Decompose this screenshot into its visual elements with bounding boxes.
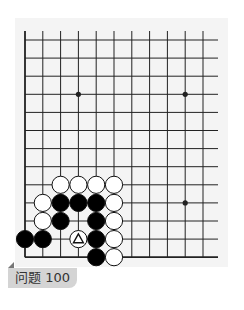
white-stone[interactable] (34, 194, 51, 211)
white-stone[interactable] (52, 176, 69, 193)
black-stone[interactable] (70, 194, 87, 211)
white-stone[interactable] (105, 176, 122, 193)
white-stone[interactable] (105, 231, 122, 248)
white-stone[interactable] (70, 176, 87, 193)
problem-number-label: 问题 100 (8, 268, 77, 288)
black-stone[interactable] (88, 194, 105, 211)
black-stone[interactable] (34, 231, 51, 248)
black-stone[interactable] (52, 194, 69, 211)
black-stone[interactable] (16, 231, 33, 248)
star-point (76, 92, 81, 97)
white-stone[interactable] (34, 212, 51, 229)
black-stone[interactable] (88, 212, 105, 229)
white-stone[interactable] (105, 249, 122, 266)
black-stone[interactable] (88, 231, 105, 248)
white-stone[interactable] (105, 212, 122, 229)
black-stone[interactable] (52, 212, 69, 229)
black-stone[interactable] (88, 249, 105, 266)
white-stone[interactable] (105, 194, 122, 211)
go-board-grid[interactable] (0, 0, 244, 310)
star-point (183, 92, 188, 97)
white-stone[interactable] (88, 176, 105, 193)
star-point (183, 200, 188, 205)
